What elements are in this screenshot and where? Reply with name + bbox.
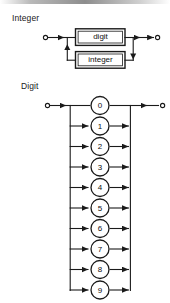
digit-label-0: 0 xyxy=(90,102,110,110)
integer-diagram-title: Integer xyxy=(12,14,39,23)
digit-box-label: digit xyxy=(76,33,125,41)
digit-start-terminal xyxy=(45,103,49,107)
digit-label-8: 8 xyxy=(90,266,110,274)
digit-end-terminal xyxy=(161,103,165,107)
digit-label-3: 3 xyxy=(90,164,110,172)
digit-label-7: 7 xyxy=(90,246,110,254)
integer-start-terminal xyxy=(43,35,47,39)
integer-end-terminal xyxy=(156,35,160,39)
digit-label-6: 6 xyxy=(90,225,110,233)
integer-left-rail-arrowhead xyxy=(64,44,70,50)
digit-label-9: 9 xyxy=(90,287,110,295)
digit-diagram-title: Digit xyxy=(21,82,39,91)
integer-box-label: integer xyxy=(76,56,125,64)
digit-label-1: 1 xyxy=(90,123,110,131)
railroad-diagram-canvas xyxy=(0,0,170,303)
digit-label-4: 4 xyxy=(90,184,110,192)
digit-label-2: 2 xyxy=(90,143,110,151)
digit-label-5: 5 xyxy=(90,205,110,213)
integer-right-rail-arrowhead xyxy=(130,54,136,60)
